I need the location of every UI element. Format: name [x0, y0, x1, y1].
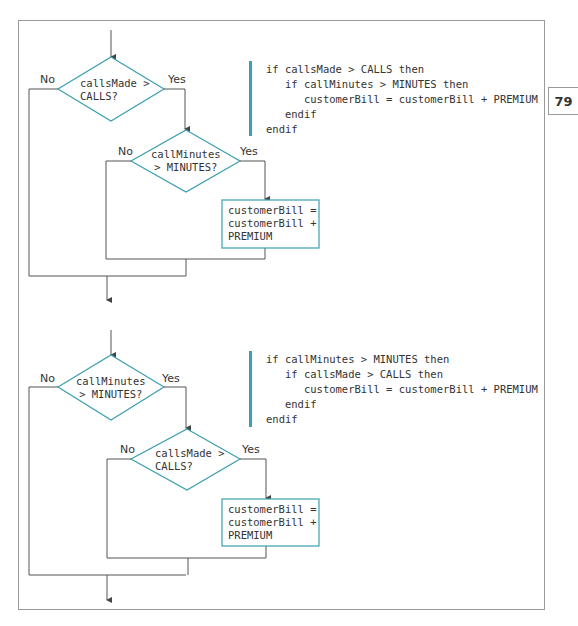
decision-line-1: callsMade >: [155, 447, 225, 459]
yes-label-outer: Yes: [168, 73, 186, 86]
process-text: customerBill = customerBill + PREMIUM: [228, 204, 317, 243]
decision-text-outer: callsMade > CALLS?: [80, 77, 150, 103]
decision-text-inner: callsMade > CALLS?: [155, 447, 225, 473]
code-line: if callsMade > CALLS then: [266, 367, 538, 382]
process-line-1: customerBill =: [228, 503, 317, 515]
code-line: endif: [266, 412, 538, 427]
yes-label-outer: Yes: [162, 372, 180, 385]
code-line: customerBill = customerBill + PREMIUM: [266, 382, 538, 397]
yes-path-inner: [240, 161, 265, 199]
page-number: 79: [548, 87, 578, 115]
yes-label-inner: Yes: [240, 145, 258, 158]
decision-text-inner: callMinutes > MINUTES?: [151, 148, 221, 174]
decision-line-2: CALLS?: [80, 90, 118, 102]
decision-text-outer: callMinutes > MINUTES?: [76, 375, 146, 401]
yes-path-outer: [164, 89, 185, 129]
code-line: customerBill = customerBill + PREMIUM: [266, 92, 538, 107]
process-line-3: PREMIUM: [228, 529, 272, 541]
code-line: if callMinutes > MINUTES then: [266, 77, 538, 92]
code-accent-bar: [249, 351, 252, 427]
code-line: if callMinutes > MINUTES then: [266, 352, 538, 367]
decision-line-2: > MINUTES?: [79, 388, 142, 400]
process-line-1: customerBill =: [228, 204, 317, 216]
pseudocode-block: if callMinutes > MINUTES then if callsMa…: [266, 352, 538, 427]
yes-path-inner: [240, 459, 266, 498]
code-accent-bar: [249, 61, 252, 136]
code-line: if callsMade > CALLS then: [266, 62, 538, 77]
code-line: endif: [266, 397, 538, 412]
code-line: endif: [266, 122, 538, 137]
process-text: customerBill = customerBill + PREMIUM: [228, 503, 317, 542]
process-line-2: customerBill +: [228, 516, 317, 528]
no-label-inner: No: [120, 443, 135, 456]
decision-line-2: > MINUTES?: [154, 161, 217, 173]
decision-line-1: callMinutes: [76, 375, 146, 387]
yes-label-inner: Yes: [242, 443, 260, 456]
no-label-inner: No: [118, 145, 133, 158]
process-line-2: customerBill +: [228, 217, 317, 229]
decision-line-1: callMinutes: [151, 148, 221, 160]
yes-path-outer: [164, 387, 186, 428]
no-label-outer: No: [40, 372, 55, 385]
decision-line-2: CALLS?: [155, 460, 193, 472]
pseudocode-block: if callsMade > CALLS then if callMinutes…: [266, 62, 538, 137]
process-line-3: PREMIUM: [228, 230, 272, 242]
code-line: endif: [266, 107, 538, 122]
decision-line-1: callsMade >: [80, 77, 150, 89]
no-label-outer: No: [40, 73, 55, 86]
